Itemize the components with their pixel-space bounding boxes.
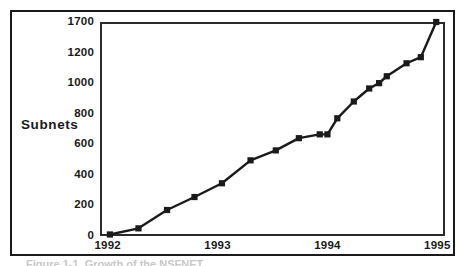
data-point-marker xyxy=(107,231,113,237)
data-point-marker xyxy=(376,80,382,86)
y-tick-label: 1200 xyxy=(34,47,94,58)
y-tick-label: 1700 xyxy=(34,16,94,27)
chart-screenshot: 0200400600800100012001700 19921993199419… xyxy=(0,0,466,266)
x-tick-label: 1992 xyxy=(78,239,138,251)
data-point-marker xyxy=(324,131,330,137)
data-point-marker xyxy=(191,194,197,200)
data-point-marker xyxy=(164,207,170,213)
data-point-marker xyxy=(219,180,225,186)
data-point-marker xyxy=(384,73,390,79)
data-point-marker xyxy=(296,135,302,141)
data-point-marker xyxy=(317,131,323,137)
y-axis-title: Subnets xyxy=(21,117,78,132)
data-point-marker xyxy=(433,19,439,25)
x-axis-tick-labels: 1992199319941995 xyxy=(0,239,466,255)
figure-caption: Figure 1-1. Growth of the NSFNET xyxy=(26,258,203,266)
y-tick-label: 200 xyxy=(34,199,94,210)
data-point-marker xyxy=(334,115,340,121)
data-point-marker xyxy=(351,98,357,104)
data-point-marker xyxy=(403,60,409,66)
data-point-marker xyxy=(135,225,141,231)
x-tick-label: 1994 xyxy=(297,239,357,251)
series-markers-subnets xyxy=(107,19,440,238)
data-point-marker xyxy=(366,85,372,91)
y-tick-label: 1000 xyxy=(34,77,94,88)
y-tick-label: 600 xyxy=(34,138,94,149)
data-point-marker xyxy=(418,54,424,60)
series-line-subnets xyxy=(110,22,436,234)
y-tick-label: 400 xyxy=(34,169,94,180)
x-tick-label: 1995 xyxy=(407,239,466,251)
y-axis-tick-labels: 0200400600800100012001700 xyxy=(32,0,94,266)
data-point-marker xyxy=(247,157,253,163)
data-point-marker xyxy=(273,147,279,153)
x-tick-label: 1993 xyxy=(188,239,248,251)
chart-plot-area xyxy=(100,22,445,236)
